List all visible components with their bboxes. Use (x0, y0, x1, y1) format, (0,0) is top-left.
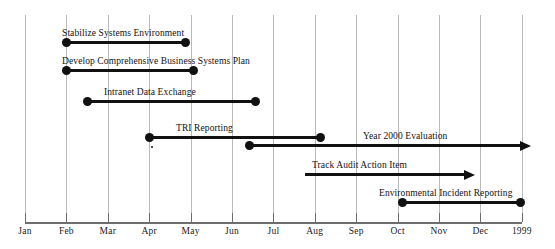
gridline-apr (149, 15, 150, 214)
task-label: Intranet Data Exchange (104, 87, 196, 97)
gridline-nov (439, 15, 440, 214)
tick-label-may: May (182, 226, 200, 236)
axis-baseline (25, 222, 522, 224)
task-bar[interactable] (249, 144, 520, 147)
gridline-sep (356, 15, 357, 214)
gridline-aug (315, 15, 316, 214)
task-start-dot-icon (398, 198, 407, 207)
gridline-dec (480, 15, 481, 214)
tick-label-jan: Jan (18, 226, 31, 236)
task-row[interactable]: Environmental Incident Reporting (402, 201, 521, 204)
task-row[interactable]: Year 2000 Evaluation (249, 144, 520, 147)
tick-nov (439, 213, 440, 222)
tick-label-mar: Mar (100, 226, 116, 236)
task-bar[interactable] (305, 173, 464, 176)
tick-label-feb: Feb (59, 226, 74, 236)
tick-sep (356, 213, 357, 222)
task-end-dot-icon (316, 133, 325, 142)
tick-dec (480, 213, 481, 222)
task-label: Develop Comprehensive Business Systems P… (62, 56, 250, 66)
task-start-dot-icon (62, 66, 71, 75)
tick-1999 (522, 213, 523, 222)
tick-aug (315, 213, 316, 222)
gridline-jan (25, 15, 26, 214)
tick-label-jul: Jul (268, 226, 280, 236)
gridline-jul (273, 15, 274, 214)
tick-label-sep: Sep (349, 226, 364, 236)
task-bar[interactable] (149, 136, 321, 139)
tick-label-dec: Dec (472, 226, 488, 236)
tick-oct (398, 213, 399, 222)
tick-feb (66, 213, 67, 222)
task-start-dot-icon (62, 38, 71, 47)
task-end-arrow-icon (464, 170, 475, 180)
gridline-jun (232, 15, 233, 214)
task-label: Stabilize Systems Environment (62, 28, 184, 38)
tick-label-apr: Apr (142, 226, 157, 236)
gantt-chart: JanFebMarAprMayJunJulAugSepOctNovDec1999… (0, 0, 555, 249)
tick-label-jun: Jun (225, 226, 239, 236)
task-bar[interactable] (66, 69, 194, 72)
tick-label-oct: Oct (390, 226, 404, 236)
task-label: TRI Reporting (176, 123, 233, 133)
task-row[interactable]: TRI Reporting (149, 136, 321, 139)
tick-apr (149, 213, 150, 222)
task-row[interactable]: Develop Comprehensive Business Systems P… (66, 69, 194, 72)
task-label: Track Audit Action Item (312, 160, 407, 170)
tick-may (191, 213, 192, 222)
task-end-arrow-icon (520, 141, 531, 151)
task-end-dot-icon (189, 66, 198, 75)
task-end-dot-icon (251, 97, 260, 106)
tri-reporting-sub-marker-icon (151, 146, 153, 148)
gridline-may (191, 15, 192, 214)
task-start-dot-icon (245, 141, 254, 150)
task-bar[interactable] (402, 201, 521, 204)
gridline-1999 (522, 15, 523, 214)
task-label: Environmental Incident Reporting (379, 188, 513, 198)
task-start-dot-icon (83, 97, 92, 106)
task-start-dot-icon (145, 133, 154, 142)
tick-jul (273, 213, 274, 222)
task-end-dot-icon (181, 38, 190, 47)
task-label: Year 2000 Evaluation (363, 131, 447, 141)
task-bar[interactable] (87, 100, 256, 103)
tick-label-1999: 1999 (512, 226, 532, 236)
tick-jan (25, 213, 26, 222)
tick-jun (232, 213, 233, 222)
tick-mar (108, 213, 109, 222)
task-row[interactable]: Intranet Data Exchange (87, 100, 256, 103)
tick-label-nov: Nov (431, 226, 448, 236)
gridline-oct (398, 15, 399, 214)
task-bar[interactable] (66, 41, 186, 44)
task-end-dot-icon (516, 198, 525, 207)
task-row[interactable]: Track Audit Action Item (305, 173, 464, 176)
gridline-mar (108, 15, 109, 214)
tick-label-aug: Aug (306, 226, 323, 236)
task-row[interactable]: Stabilize Systems Environment (66, 41, 186, 44)
